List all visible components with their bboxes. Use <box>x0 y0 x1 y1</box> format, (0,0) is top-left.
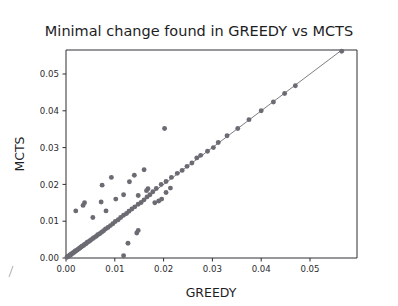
scatter-point <box>146 186 151 191</box>
scatter-point <box>113 197 118 202</box>
y-tick-label: 0.01 <box>40 216 59 226</box>
scatter-point <box>154 186 159 191</box>
x-tick-label: 0.03 <box>203 264 222 274</box>
scatter-point <box>142 167 147 172</box>
x-tick-label: 0.02 <box>154 264 173 274</box>
scatter-point <box>82 200 87 205</box>
x-tick-label: 0.05 <box>300 264 319 274</box>
scatter-point <box>136 193 141 198</box>
y-tick-label: 0.04 <box>40 106 59 116</box>
scatter-point <box>185 164 190 169</box>
scatter-point <box>159 182 164 187</box>
scatter-point <box>175 171 180 176</box>
x-axis-ticks: 0.000.010.020.030.040.05 <box>56 258 319 274</box>
scatter-point <box>164 179 169 184</box>
y-tick-label: 0.00 <box>40 253 59 263</box>
scatter-point <box>205 149 210 154</box>
scatter-point <box>198 153 203 158</box>
x-tick-label: 0.04 <box>252 264 271 274</box>
scatter-point <box>169 175 174 180</box>
scatter-point <box>282 91 287 96</box>
scatter-point <box>121 253 126 258</box>
scatter-point <box>164 190 169 195</box>
x-axis-label: GREEDY <box>186 285 237 300</box>
scatter-point <box>162 126 167 131</box>
scan-mark-artifact <box>9 266 13 277</box>
x-tick-label: 0.01 <box>105 264 124 274</box>
y-tick-label: 0.03 <box>40 143 59 153</box>
y-tick-label: 0.02 <box>40 180 59 190</box>
scatter-point <box>121 192 126 197</box>
scatter-point <box>168 186 173 191</box>
figure-canvas: Minimal change found in GREEDY vs MCTS 0… <box>0 0 398 306</box>
scatter-point <box>90 215 95 220</box>
scatter-point <box>136 228 141 233</box>
scatter-point <box>247 117 252 122</box>
scatter-point <box>235 126 240 131</box>
scatter-point <box>73 208 78 213</box>
x-tick-label: 0.00 <box>56 264 75 274</box>
y-axis-ticks: 0.000.010.020.030.040.05 <box>40 69 66 263</box>
scatter-point <box>180 168 185 173</box>
scatter-point <box>109 175 114 180</box>
scatter-point <box>259 108 264 113</box>
scatter-point <box>189 161 194 166</box>
scatter-point <box>104 208 109 213</box>
scatter-point <box>339 49 344 54</box>
scatter-point <box>99 200 104 205</box>
scatter-point <box>225 133 230 138</box>
y-axis-label: MCTS <box>12 136 27 171</box>
y-tick-label: 0.05 <box>40 69 59 79</box>
scatter-point <box>132 173 137 178</box>
chart-title: Minimal change found in GREEDY vs MCTS <box>45 23 353 39</box>
scatter-point <box>126 241 131 246</box>
scatter-point <box>127 179 132 184</box>
scatter-point <box>100 183 105 188</box>
scatter-point <box>211 145 216 150</box>
scatter-point <box>216 140 221 145</box>
scatter-point <box>293 83 298 88</box>
scatter-point <box>271 100 276 105</box>
scatter-chart: Minimal change found in GREEDY vs MCTS 0… <box>0 0 398 306</box>
scatter-point <box>159 197 164 202</box>
